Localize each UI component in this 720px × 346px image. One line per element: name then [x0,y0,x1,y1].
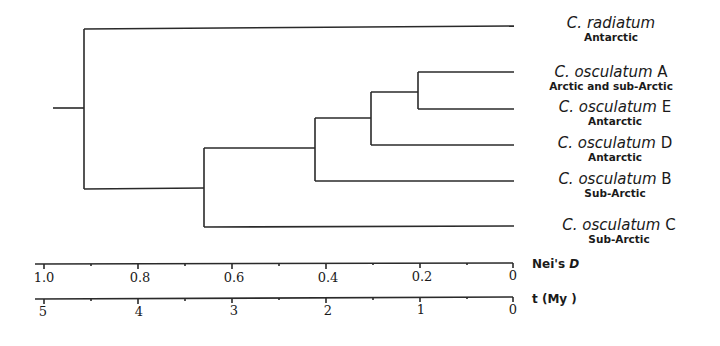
time-tick-5: 5 [39,304,47,319]
neis-d-tick-1.0: 1.0 [34,270,55,285]
neis-d-tick-0: 0 [509,268,517,283]
taxon-suffix: C [665,216,675,234]
taxon-region: Antarctic [510,152,720,163]
taxon-suffix: D [661,134,673,152]
taxon-region: Sub-Arctic [514,234,720,245]
taxon-label-osculatum-a: C. osculatum A Arctic and sub-Arctic [506,65,716,92]
neis-d-tick-0.8: 0.8 [130,270,151,285]
taxon-label-radiatum: C. radiatum Antarctic [506,16,716,43]
taxon-region: Arctic and sub-Arctic [506,81,716,92]
taxon-suffix: B [661,170,671,188]
time-tick-4: 4 [135,304,143,319]
neis-d-axis-label: Nei's D [532,257,579,271]
taxon-name: C. osculatum [558,134,656,152]
taxon-region: Antarctic [506,32,716,43]
taxon-suffix: E [662,98,671,116]
taxon-name: C. osculatum [559,98,657,116]
time-tick-0: 0 [509,302,517,317]
branch-osculatum-clade [84,188,204,189]
time-tick-1: 1 [417,302,425,317]
branch-osculatum-c [204,226,514,227]
branch-radiatum [84,26,514,29]
neis-d-tick-0.6: 0.6 [224,270,245,285]
taxon-suffix: A [657,63,667,81]
time-tick-3: 3 [230,303,238,318]
time-axis-line [35,297,513,299]
taxon-region: Antarctic [510,116,720,127]
time-tick-2: 2 [324,303,332,318]
taxon-name: C. radiatum [567,14,655,32]
taxon-label-osculatum-e: C. osculatum E Antarctic [510,100,720,127]
taxon-name: C. osculatum [558,170,656,188]
taxon-region: Sub-Arctic [510,188,720,199]
taxon-name: C. osculatum [554,63,652,81]
neis-d-tick-0.2: 0.2 [412,269,433,284]
taxon-label-osculatum-d: C. osculatum D Antarctic [510,136,720,163]
neis-d-axis-line [35,263,513,264]
taxon-label-osculatum-c: C. osculatum C Sub-Arctic [514,218,720,245]
time-axis-label: t (My ) [532,292,577,306]
taxon-label-osculatum-b: C. osculatum B Sub-Arctic [510,172,720,199]
neis-d-tick-0.4: 0.4 [318,270,339,285]
taxon-name: C. osculatum [562,216,660,234]
